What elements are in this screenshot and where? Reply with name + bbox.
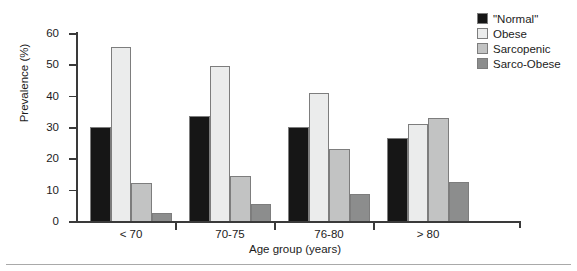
legend-item: Obese [477, 27, 561, 40]
bar-7075-sarcoobese [251, 204, 272, 221]
y-axis-tick-label: 50 [46, 59, 59, 69]
y-axis-tick-label: 60 [46, 28, 59, 38]
y-axis-label: Prevalence (%) [18, 23, 30, 143]
x-axis-label: Age group (years) [80, 243, 510, 255]
chart-legend: "Normal"ObeseSarcopenicSarco-Obese [477, 12, 561, 70]
y-axis-tick-label: 30 [46, 122, 59, 132]
y-axis-tick: 60 [69, 33, 76, 35]
y-axis-tick-label: 40 [46, 91, 59, 101]
y-axis-tick: 10 [69, 190, 76, 192]
x-axis-line [76, 221, 521, 223]
bar-80-obese [408, 124, 429, 221]
bar-80-sarcoobese [449, 182, 470, 221]
bar-80-normal [387, 138, 408, 221]
legend-swatch-icon [477, 43, 488, 54]
bar-70-normal [90, 127, 111, 221]
legend-item: Sarcopenic [477, 42, 561, 55]
prevalence-bar-chart: Prevalence (%) 0102030405060 Age group (… [0, 0, 577, 271]
x-axis-tick [373, 222, 375, 230]
x-axis-tick-label: > 80 [388, 228, 468, 240]
legend-label: Sarco-Obese [493, 58, 561, 70]
legend-label: Obese [493, 28, 527, 40]
y-axis-tick: 50 [69, 64, 76, 66]
bar-7075-normal [189, 116, 210, 221]
bar-80-sarcopenic [428, 118, 449, 221]
legend-label: "Normal" [493, 13, 538, 25]
bar-7680-obese [309, 93, 330, 221]
y-axis-tick: 40 [69, 96, 76, 98]
plot-area: 0102030405060 [76, 33, 513, 221]
y-axis-tick-label: 10 [46, 185, 59, 195]
y-axis-tick: 20 [69, 158, 76, 160]
y-axis-tick-label: 0 [53, 216, 59, 226]
bar-7680-normal [288, 127, 309, 221]
bar-70-sarcoobese [152, 213, 173, 221]
legend-item: "Normal" [477, 12, 561, 25]
legend-swatch-icon [477, 28, 488, 39]
legend-item: Sarco-Obese [477, 57, 561, 70]
bar-7680-sarcoobese [350, 194, 371, 221]
x-axis-tick-label: < 70 [91, 228, 171, 240]
bar-70-obese [111, 47, 132, 221]
bar-7680-sarcopenic [329, 149, 350, 221]
x-axis-tick [274, 222, 276, 230]
legend-swatch-icon [477, 13, 488, 24]
legend-swatch-icon [477, 58, 488, 69]
x-axis-tick [175, 222, 177, 230]
bar-7075-obese [210, 66, 231, 221]
y-axis-tick: 0 [69, 221, 76, 223]
bar-70-sarcopenic [131, 183, 152, 221]
x-axis-tick-label: 70-75 [190, 228, 270, 240]
bar-7075-sarcopenic [230, 176, 251, 221]
y-axis-tick: 30 [69, 127, 76, 129]
x-axis-tick-label: 76-80 [289, 228, 369, 240]
legend-label: Sarcopenic [493, 43, 551, 55]
x-axis-end-tick [519, 221, 521, 228]
y-axis-tick-label: 20 [46, 153, 59, 163]
footer-divider [6, 264, 571, 265]
